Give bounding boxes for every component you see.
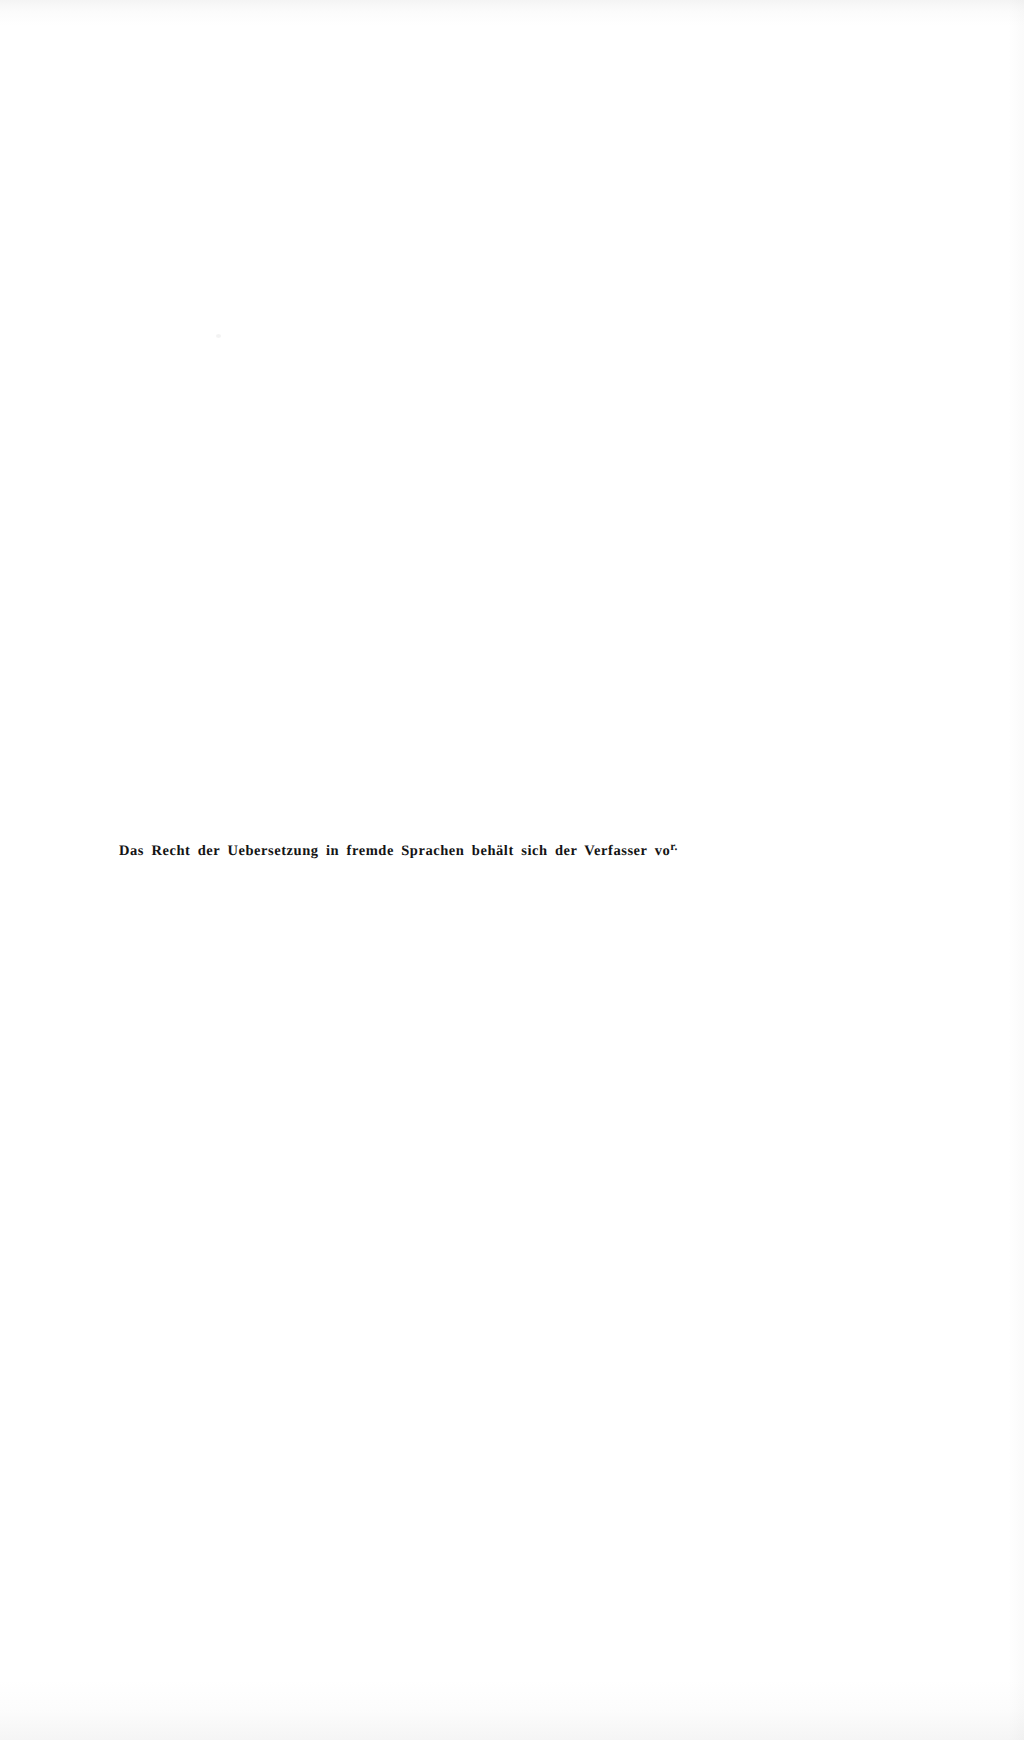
scan-edge-shading-top [0,0,1024,26]
scan-speck-artifact [216,334,221,338]
translation-rights-notice-raised-suffix: r. [670,839,677,856]
scanned-page: Das Recht der Uebersetzung in fremde Spr… [0,0,1024,1740]
translation-rights-notice: Das Recht der Uebersetzung in fremde Spr… [119,843,819,861]
scan-edge-shading-right [1008,0,1024,1740]
translation-rights-notice-body: Das Recht der Uebersetzung in fremde Spr… [119,843,670,859]
scan-edge-shading-bottom [0,1680,1024,1740]
